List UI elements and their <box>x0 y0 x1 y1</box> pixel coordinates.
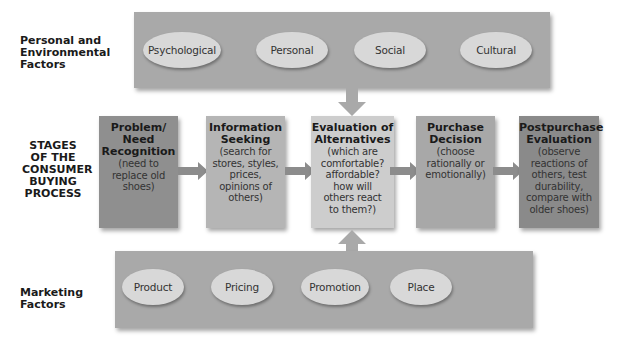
factor-promotion: Promotion <box>301 269 369 305</box>
stage-desc: others react <box>311 192 394 204</box>
stage-desc: (search for <box>206 146 285 158</box>
factor-place: Place <box>390 269 452 305</box>
stage-title: Evaluation <box>519 134 599 146</box>
stage-desc: stores, styles, <box>206 158 285 170</box>
stage-desc: others) <box>206 192 285 204</box>
factor-pricing: Pricing <box>211 269 273 305</box>
stage-desc: shoes) <box>99 181 178 193</box>
stage-desc: opinions of <box>206 181 285 193</box>
personal-environmental-panel: Psychological Personal Social Cultural <box>134 12 550 88</box>
stage-desc: (need to <box>99 158 178 170</box>
label-line: PROCESS <box>22 188 84 200</box>
label-line: Factors <box>20 299 83 311</box>
factor-personal: Personal <box>256 32 328 68</box>
stage-desc: how will <box>311 181 394 193</box>
stage-desc: older shoes) <box>519 204 599 216</box>
stage-desc: (which are <box>311 146 394 158</box>
stage-desc: (observe <box>519 146 599 158</box>
stage-information-seeking: Information Seeking (search for stores, … <box>206 116 285 228</box>
stage-purchase-decision: Purchase Decision (choose rationally or … <box>416 116 495 228</box>
stage-problem-recognition: Problem/ Need Recognition (need to repla… <box>99 116 178 228</box>
stage-title: Seeking <box>206 134 285 146</box>
stage-desc: emotionally) <box>416 169 495 181</box>
stage-desc: durability, <box>519 181 599 193</box>
stage-desc: others, test <box>519 169 599 181</box>
stage-desc: rationally or <box>416 158 495 170</box>
stage-title: Alternatives <box>311 134 394 146</box>
stage-desc: prices, <box>206 169 285 181</box>
stage-desc: affordable? <box>311 169 394 181</box>
label-line: Factors <box>20 59 110 71</box>
marketing-factors-panel: Product Pricing Promotion Place <box>115 251 533 328</box>
stage-desc: replace old <box>99 170 178 182</box>
stage-desc: (choose <box>416 146 495 158</box>
stage-evaluation-of-alternatives: Evaluation of Alternatives (which are co… <box>311 116 394 228</box>
stage-postpurchase-evaluation: Postpurchase Evaluation (observe reactio… <box>519 116 599 228</box>
down-arrow-icon <box>338 88 366 118</box>
personal-environmental-factors-label: Personal and Environmental Factors <box>20 35 110 71</box>
factor-psychological: Psychological <box>143 32 221 68</box>
stage-title: Decision <box>416 134 495 146</box>
stage-desc: reactions of <box>519 158 599 170</box>
factor-cultural: Cultural <box>460 32 532 68</box>
stages-label: STAGES OF THE CONSUMER BUYING PROCESS <box>22 140 84 200</box>
right-arrow-icon <box>178 162 208 180</box>
stage-desc: comfortable? <box>311 158 394 170</box>
stage-desc: to them?) <box>311 204 394 216</box>
stage-title: Recognition <box>99 146 178 158</box>
factor-social: Social <box>354 32 426 68</box>
stage-desc: compare with <box>519 192 599 204</box>
factor-product: Product <box>122 269 184 305</box>
marketing-factors-label: Marketing Factors <box>20 287 83 311</box>
